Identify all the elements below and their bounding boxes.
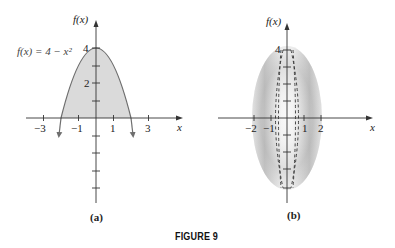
x-tick-label-neg3: −3 (34, 123, 46, 134)
x-tick-label-3: 3 (145, 123, 151, 134)
function-label: f(x) = 4 − x² (17, 46, 72, 57)
y-tick-label-4: 4 (83, 43, 89, 54)
x-tick-label-neg1-b: −1 (263, 123, 275, 134)
x-tick-label-2-b: 2 (318, 123, 324, 134)
figure-canvas (0, 0, 395, 248)
x-axis-label-a: x (177, 122, 182, 133)
parabola-left-arrow (59, 118, 61, 135)
y-tick-label-4-b: 4 (275, 44, 281, 55)
x-tick-label-neg1: −1 (71, 123, 83, 134)
figure-caption: FIGURE 9 (175, 230, 218, 242)
x-tick-label-1: 1 (110, 123, 116, 134)
panel-label-b: (b) (287, 210, 300, 221)
y-tick-label-2: 2 (84, 78, 90, 89)
panel-label-a: (a) (90, 212, 103, 223)
panel-b (218, 23, 373, 203)
x-tick-label-1-b: 1 (302, 123, 308, 134)
parabola-right-arrow (131, 118, 133, 135)
x-tick-label-neg2-b: −2 (245, 123, 257, 134)
y-axis-label-b: f(x) (266, 16, 281, 27)
x-axis-label-b: x (370, 122, 375, 133)
y-axis-label-a: f(x) (73, 14, 88, 25)
